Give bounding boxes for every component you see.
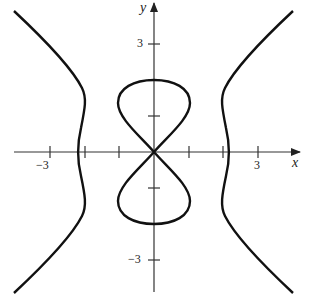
y-tick-label-pos3: 3 — [137, 36, 143, 51]
x-tick-label-pos3: 3 — [254, 158, 260, 173]
plot — [0, 0, 315, 295]
x-axis-label: x — [292, 155, 298, 171]
y-tick-label-neg3: −3 — [128, 252, 141, 267]
y-axis-label: y — [140, 0, 146, 16]
x-tick-label-neg3: −3 — [36, 158, 49, 173]
